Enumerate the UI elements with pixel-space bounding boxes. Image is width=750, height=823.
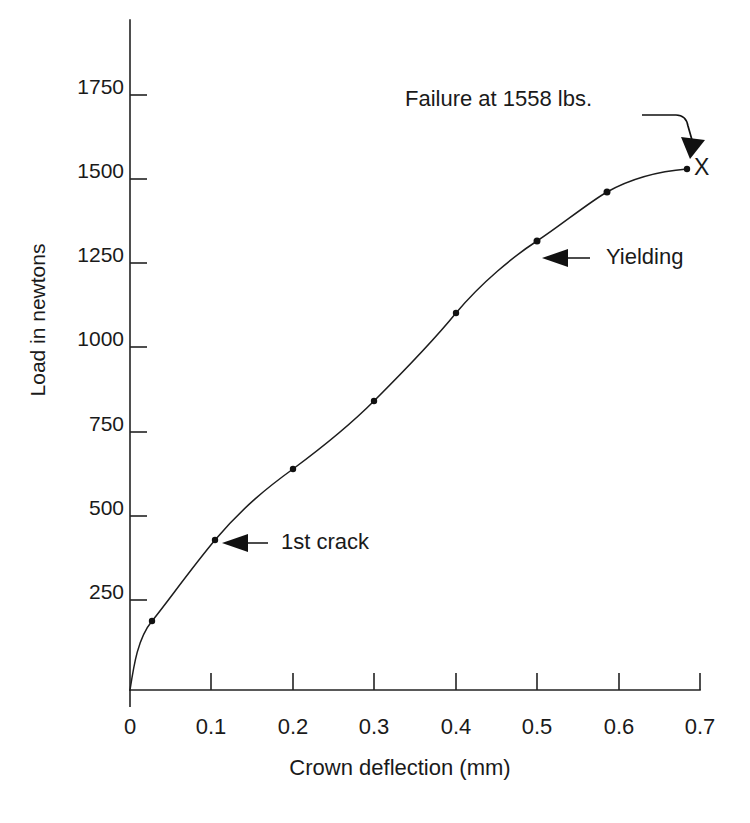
- x-tick-label-0.4: 0.4: [441, 714, 472, 739]
- load-deflection-curve: [130, 169, 687, 690]
- data-point: [371, 398, 377, 404]
- data-point: [453, 310, 459, 316]
- y-tick-label-250: 250: [89, 580, 124, 603]
- y-axis-title: Load in newtons: [26, 244, 49, 397]
- annotation-first-crack: 1st crack: [222, 529, 370, 554]
- annotation-first-crack-label: 1st crack: [281, 529, 370, 554]
- y-tick-label-750: 750: [89, 412, 124, 435]
- axes-group: [130, 20, 700, 690]
- annotation-yielding: Yielding: [542, 244, 683, 269]
- y-tick-labels: 1750 1500 1250 1000 750 500 250: [77, 75, 124, 603]
- endpoint-x-label: X: [694, 154, 709, 180]
- y-tick-label-1000: 1000: [77, 327, 124, 350]
- x-axis-title: Crown deflection (mm): [289, 755, 510, 780]
- x-tick-label-0: 0: [124, 714, 136, 739]
- annotation-first-crack-arrowhead: [222, 534, 248, 552]
- y-tick-marks: [130, 95, 147, 600]
- x-tick-label-0.7: 0.7: [685, 714, 716, 739]
- annotation-yielding-arrowhead: [542, 249, 568, 267]
- y-tick-label-1500: 1500: [77, 159, 124, 182]
- data-point: [212, 537, 218, 543]
- failure-endpoint-marker: [684, 166, 690, 172]
- x-tick-label-0.1: 0.1: [196, 714, 227, 739]
- x-tick-label-0.2: 0.2: [278, 714, 309, 739]
- x-tick-label-0.3: 0.3: [359, 714, 390, 739]
- annotation-failure: Failure at 1558 lbs.: [405, 86, 705, 159]
- data-point: [290, 466, 296, 472]
- y-tick-label-500: 500: [89, 496, 124, 519]
- annotation-yielding-label: Yielding: [606, 244, 683, 269]
- chart-figure: 1750 1500 1250 1000 750 500 250 0 0.1 0.…: [0, 0, 750, 823]
- data-point: [149, 618, 155, 624]
- annotation-failure-label: Failure at 1558 lbs.: [405, 86, 592, 111]
- x-tick-labels: 0 0.1 0.2 0.3 0.4 0.5 0.6 0.7: [124, 714, 715, 739]
- x-tick-label-0.6: 0.6: [604, 714, 635, 739]
- y-tick-label-1250: 1250: [77, 243, 124, 266]
- data-point: [604, 189, 611, 196]
- x-tick-label-0.5: 0.5: [522, 714, 553, 739]
- data-point-markers: [149, 166, 690, 624]
- annotation-failure-leader: [642, 115, 692, 140]
- data-point: [534, 238, 541, 245]
- load-deflection-line-chart: 1750 1500 1250 1000 750 500 250 0 0.1 0.…: [0, 0, 750, 823]
- y-tick-label-1750: 1750: [77, 75, 124, 98]
